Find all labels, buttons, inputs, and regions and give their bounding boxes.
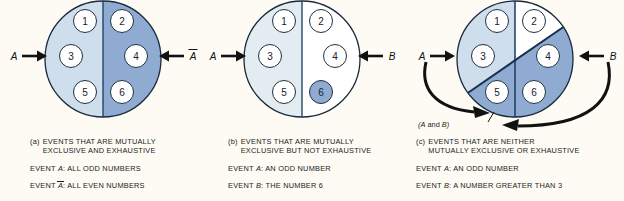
outcome-label-2: 2 (119, 16, 125, 27)
event-a-arrow-left (22, 51, 47, 62)
caption-b: (b) EVENTS THAT ARE MUTUALLY EXCLUSIVE B… (228, 138, 414, 190)
diagram-a: 1 2 3 4 5 6 A (0, 0, 208, 132)
caption-tag-c: (c) (416, 138, 425, 155)
intersection-label: (A and B) (418, 120, 449, 129)
event-a-text: : AN ODD NUMBER (449, 164, 519, 173)
panel-b: 1 2 3 4 5 6 A (208, 0, 412, 201)
caption-tag-a: (a) (30, 138, 40, 155)
caption-event-a-line: EVENT A: AN ODD NUMBER (416, 165, 624, 173)
event-a-complement-text: : ALL EVEN NUMBERS (63, 181, 145, 190)
event-a-arrow-left (221, 51, 246, 62)
outcome-label-2: 2 (531, 16, 537, 27)
outcome-label-5: 5 (281, 87, 287, 98)
event-a-label-left: A (10, 51, 18, 62)
outcome-label-3: 3 (267, 51, 273, 62)
diagram-c-svg: 1 2 3 4 5 6 A (408, 0, 624, 132)
event-a-prefix: EVENT (416, 164, 444, 173)
event-a-complement-symbol: A (58, 182, 63, 190)
caption-event-a-line: EVENT A: ALL ODD NUMBERS (30, 165, 206, 173)
outcome-label-4: 4 (332, 51, 338, 62)
outcome-label-2: 2 (318, 16, 324, 27)
caption-c: (c) EVENTS THAT ARE NEITHER MUTUALLY EXC… (416, 138, 624, 190)
outcome-label-4: 4 (133, 51, 139, 62)
caption-event-a-line: EVENT A: AN ODD NUMBER (228, 165, 414, 173)
intersection-label-and: and (425, 120, 441, 129)
event-b-label-right: B (610, 51, 617, 62)
outcome-label-3: 3 (480, 51, 486, 62)
event-b-prefix: EVENT (416, 181, 444, 190)
event-a-complement-label-right: A (189, 51, 197, 62)
caption-head-line-2-b: EXCLUSIVE BUT NOT EXHAUSTIVE (241, 147, 414, 155)
event-a-prefix: EVENT (228, 164, 256, 173)
caption-tag-b: (b) (228, 138, 238, 155)
event-a-prefix: EVENT (30, 164, 58, 173)
intersection-label-close: ) (447, 120, 449, 129)
caption-event-b-line: EVENT B: A NUMBER GREATER THAN 3 (416, 182, 624, 190)
outcome-label-1: 1 (281, 16, 287, 27)
outcome-label-6: 6 (318, 87, 324, 98)
event-a-label-left: A (418, 51, 426, 62)
diagram-b: 1 2 3 4 5 6 A (208, 0, 412, 132)
outcome-label-1: 1 (82, 16, 88, 27)
event-b-text: : THE NUMBER 6 (261, 181, 323, 190)
caption-head-line-1-c: EVENTS THAT ARE NEITHER (428, 138, 624, 146)
event-b-text: : A NUMBER GREATER THAN 3 (449, 181, 562, 190)
probability-events-figure: 1 2 3 4 5 6 A (0, 0, 624, 201)
event-a-text: : ALL ODD NUMBERS (63, 164, 141, 173)
outcome-label-1: 1 (494, 16, 500, 27)
caption-event-a-complement-line: EVENT A: ALL EVEN NUMBERS (30, 182, 206, 190)
event-b-label-right: B (389, 51, 396, 62)
outcome-label-5: 5 (82, 87, 88, 98)
outcome-label-6: 6 (531, 87, 537, 98)
event-b-prefix: EVENT (228, 181, 256, 190)
outcome-label-6: 6 (119, 87, 125, 98)
caption-event-b-line: EVENT B: THE NUMBER 6 (228, 182, 414, 190)
caption-head-line-2-a: EXCLUSIVE AND EXHAUSTIVE (43, 147, 206, 155)
event-b-arrow-right (579, 51, 604, 62)
event-a-complement-arrow-right (159, 51, 184, 62)
panel-c: 1 2 3 4 5 6 A (408, 0, 624, 201)
diagram-c: 1 2 3 4 5 6 A (408, 0, 624, 132)
event-a-label-left: A (209, 51, 217, 62)
diagram-b-svg: 1 2 3 4 5 6 A (208, 0, 412, 132)
outcome-label-5: 5 (494, 87, 500, 98)
event-a-complement-prefix: EVENT (30, 181, 58, 190)
event-a-text: : AN ODD NUMBER (261, 164, 331, 173)
caption-a: (a) EVENTS THAT ARE MUTUALLY EXCLUSIVE A… (30, 138, 206, 190)
event-b-arrow-right (358, 51, 383, 62)
outcome-label-3: 3 (68, 51, 74, 62)
intersection-leader-line (488, 112, 494, 122)
caption-head-line-1-b: EVENTS THAT ARE MUTUALLY (241, 138, 414, 146)
event-a-arrow-left (430, 51, 455, 62)
caption-head-line-2-c: MUTUALLY EXCLUSIVE OR EXHAUSTIVE (428, 147, 624, 155)
caption-head-line-1-a: EVENTS THAT ARE MUTUALLY (43, 138, 206, 146)
outcome-label-4: 4 (545, 51, 551, 62)
diagram-a-svg: 1 2 3 4 5 6 A (0, 0, 208, 132)
panel-a: 1 2 3 4 5 6 A (0, 0, 208, 201)
